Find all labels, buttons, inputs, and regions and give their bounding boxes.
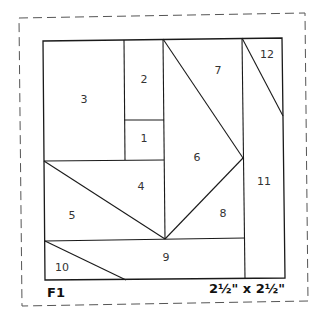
piece-label-11: 11	[257, 175, 271, 188]
piece-label-2: 2	[141, 73, 148, 86]
piece-label-10: 10	[55, 261, 69, 274]
piece-label-5: 5	[69, 209, 76, 222]
piece-label-6: 6	[194, 151, 201, 164]
foundation-piecing-diagram: 1 2 3 4 5 6 7 8 9 10 11 12 F1 2½" x 2½"	[0, 0, 325, 323]
piece-seam-lines	[44, 38, 283, 280]
piece-label-4: 4	[138, 180, 145, 193]
block-size-label: 2½" x 2½"	[209, 281, 285, 296]
piece-label-1: 1	[141, 132, 148, 145]
piece-label-7: 7	[215, 64, 222, 77]
piece-label-8: 8	[220, 207, 227, 220]
piece-label-12: 12	[260, 48, 274, 61]
block-id-label: F1	[47, 285, 65, 300]
piece-label-9: 9	[163, 251, 170, 264]
piece-label-3: 3	[81, 93, 88, 106]
